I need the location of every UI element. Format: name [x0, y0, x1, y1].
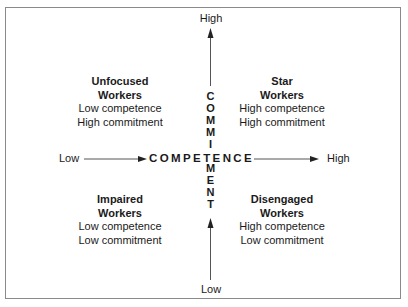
quadrant-unfocused-workers: Unfocused Workers Low competence High co…: [50, 75, 190, 129]
quadrant-description: Low commitment: [212, 234, 352, 248]
quadrant-star-workers: Star Workers High competence High commit…: [212, 75, 352, 129]
quadrant-disengaged-workers: Disengaged Workers High competence Low c…: [212, 193, 352, 247]
quadrant-title: Workers: [212, 89, 352, 103]
quadrant-description: Low competence: [50, 220, 190, 234]
quadrant-title: Unfocused: [50, 75, 190, 89]
quadrant-description: Low commitment: [50, 234, 190, 248]
competence-high-label: High: [327, 152, 350, 164]
quadrant-description: High competence: [212, 220, 352, 234]
quadrant-title: Disengaged: [212, 193, 352, 207]
commitment-high-label: High: [197, 12, 225, 24]
commitment-letter: I: [204, 138, 217, 150]
competence-axis-title: COMPETENCE: [149, 152, 254, 164]
quadrant-title: Workers: [212, 207, 352, 221]
horizontal-arrow-left: [84, 156, 147, 162]
quadrant-title: Impaired: [50, 193, 190, 207]
commitment-letter: E: [204, 174, 217, 186]
quadrant-description: Low competence: [50, 102, 190, 116]
horizontal-arrow-right: [254, 156, 319, 162]
competence-low-label: Low: [59, 152, 79, 164]
quadrant-title: Workers: [50, 207, 190, 221]
quadrant-description: High commitment: [50, 116, 190, 130]
quadrant-description: High commitment: [212, 116, 352, 130]
commitment-low-label: Low: [197, 283, 225, 295]
quadrant-title: Star: [212, 75, 352, 89]
quadrant-description: High competence: [212, 102, 352, 116]
quadrant-impaired-workers: Impaired Workers Low competence Low comm…: [50, 193, 190, 247]
quadrant-title: Workers: [50, 89, 190, 103]
